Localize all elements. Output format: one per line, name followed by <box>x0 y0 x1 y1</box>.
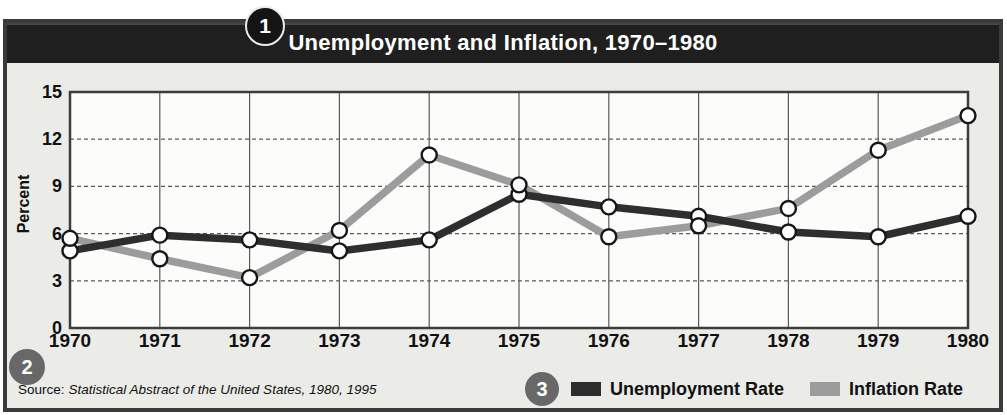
legend-label-unemployment: Unemployment Rate <box>610 379 784 400</box>
y-tick-label: 15 <box>7 83 62 101</box>
x-tick-label: 1971 <box>115 330 205 352</box>
callout-badge-3: 3 <box>525 372 559 406</box>
y-tick-label: 12 <box>7 130 62 148</box>
y-tick-label: 6 <box>7 225 62 243</box>
callout-badge-2: 2 <box>9 349 45 385</box>
chart-title-bar: Unemployment and Inflation, 1970–1980 <box>7 23 999 63</box>
legend-swatch-unemployment <box>571 382 601 396</box>
legend-swatch-inflation <box>810 382 840 396</box>
legend: 3 Unemployment Rate Inflation Rate <box>525 371 963 407</box>
x-axis-tick-labels: 1970197119721973197419751976197719781979… <box>70 330 968 352</box>
x-tick-label: 1972 <box>205 330 295 352</box>
plot-area <box>70 92 968 328</box>
x-tick-label: 1970 <box>25 330 115 352</box>
page: { "badges": ["1", "2", "3"], "header": {… <box>0 0 1007 415</box>
x-tick-label: 1980 <box>923 330 1007 352</box>
y-tick-label: 3 <box>7 272 62 290</box>
x-tick-label: 1978 <box>743 330 833 352</box>
x-tick-label: 1976 <box>564 330 654 352</box>
x-tick-label: 1977 <box>654 330 744 352</box>
x-tick-label: 1979 <box>833 330 923 352</box>
chart-canvas <box>70 92 968 328</box>
chart-title: Unemployment and Inflation, 1970–1980 <box>7 23 999 63</box>
x-tick-label: 1975 <box>474 330 564 352</box>
y-axis-tick-labels: 15129630 <box>7 83 62 337</box>
callout-badge-1: 1 <box>245 6 285 46</box>
x-tick-label: 1974 <box>384 330 474 352</box>
legend-label-inflation: Inflation Rate <box>849 379 963 400</box>
figure-panel: 1 Unemployment and Inflation, 1970–1980 … <box>3 19 1003 412</box>
source-text: Statistical Abstract of the United State… <box>69 382 377 397</box>
x-tick-label: 1973 <box>294 330 384 352</box>
source-note: Source:Statistical Abstract of the Unite… <box>18 382 376 397</box>
y-tick-label: 9 <box>7 177 62 195</box>
